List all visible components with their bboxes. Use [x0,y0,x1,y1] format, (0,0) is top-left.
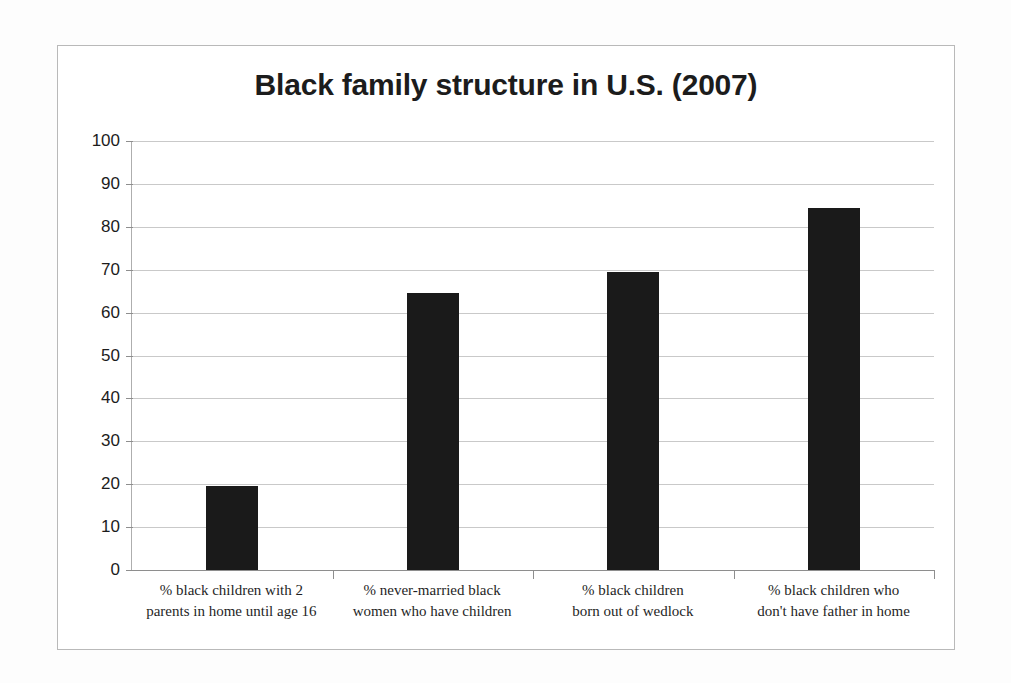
x-axis-category-label-line: % black children with 2 [135,580,328,601]
x-axis-category-label: % black childrenborn out of wedlock [533,580,734,636]
chart-figure-frame: Black family structure in U.S. (2007) 10… [57,45,955,650]
bar-slot [734,141,935,570]
y-axis-tick-label: 70 [101,260,120,280]
x-axis-category-label: % never-married blackwomen who have chil… [332,580,533,636]
bar[interactable] [407,293,459,570]
x-axis-category-label-line: % black children who [737,580,930,601]
y-axis-tick-label: 100 [92,131,120,151]
x-axis-separator-tick [533,570,534,579]
y-axis-tick-label: 10 [101,517,120,537]
x-axis-category-label-line: % black children [537,580,730,601]
x-axis-separator-tick [333,570,334,579]
bar[interactable] [206,486,258,570]
bar[interactable] [607,272,659,570]
x-axis-category-label-line: % never-married black [336,580,529,601]
y-axis-tick-label: 60 [101,303,120,323]
bar-slot [132,141,333,570]
x-axis-label-row: % black children with 2parents in home u… [131,580,934,636]
y-tick-mark [126,570,133,571]
x-axis-category-label-line: parents in home until age 16 [135,601,328,622]
y-axis-tick-label: 40 [101,388,120,408]
scanned-page: Black family structure in U.S. (2007) 10… [0,0,1011,683]
x-axis-separator-tick [734,570,735,579]
x-axis-category-label-line: born out of wedlock [537,601,730,622]
y-axis-tick-label: 90 [101,174,120,194]
x-axis-category-label-line: women who have children [336,601,529,622]
y-axis-tick-label: 50 [101,346,120,366]
bar-slot [533,141,734,570]
plot-area: 1009080706050403020100 [131,141,934,571]
y-axis-tick-label: 20 [101,474,120,494]
x-axis-category-label: % black children whodon't have father in… [733,580,934,636]
y-axis-tick-label: 80 [101,217,120,237]
y-axis-tick-label: 30 [101,431,120,451]
x-axis-separator-tick [934,570,935,579]
chart-title: Black family structure in U.S. (2007) [58,68,954,102]
bar-slot [333,141,534,570]
bar[interactable] [808,208,860,571]
x-axis-category-label-line: don't have father in home [737,601,930,622]
y-axis-tick-label: 0 [111,560,120,580]
x-axis-category-label: % black children with 2parents in home u… [131,580,332,636]
